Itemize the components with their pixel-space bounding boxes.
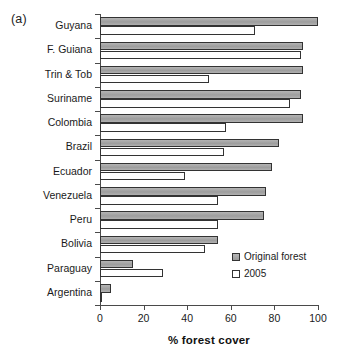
bar-original-forest-paraguay: [100, 260, 133, 269]
y-axis-category-label: Guyana: [55, 19, 92, 31]
x-axis-tick-label: 80: [259, 312, 289, 324]
bar-2005-venezuela: [100, 196, 218, 205]
legend-item-original-forest: Original forest: [232, 250, 306, 264]
bar-original-forest-ecuador: [100, 163, 272, 172]
y-axis-category-label: Trin & Tob: [45, 68, 92, 80]
bar-original-forest-colombia: [100, 114, 303, 123]
y-axis-tick: [95, 160, 100, 161]
x-axis-tick: [231, 305, 232, 310]
bar-original-forest-venezuela: [100, 187, 266, 196]
bar-original-forest-f-guiana: [100, 42, 303, 51]
legend-swatch-2005: [232, 270, 240, 278]
y-axis-tick: [95, 281, 100, 282]
bar-2005-bolivia: [100, 245, 205, 254]
y-axis-category-label: Venezuela: [43, 189, 92, 201]
y-axis-tick: [95, 63, 100, 64]
panel-label: (a): [11, 12, 27, 26]
y-axis-category-label: Suriname: [47, 92, 92, 104]
y-axis-category-label: Brazil: [66, 140, 92, 152]
bar-2005-ecuador: [100, 172, 185, 181]
y-axis-category-label: Colombia: [48, 116, 92, 128]
x-axis-tick-label: 20: [129, 312, 159, 324]
bar-2005-peru: [100, 220, 218, 229]
x-axis-tick: [100, 305, 101, 310]
x-axis-tick-label: 100: [303, 312, 333, 324]
x-axis-tick-label: 60: [216, 312, 246, 324]
legend-swatch-original-forest: [232, 253, 240, 261]
y-axis-tick: [95, 232, 100, 233]
y-axis-tick: [95, 208, 100, 209]
legend-label-original-forest: Original forest: [244, 250, 306, 264]
bar-original-forest-bolivia: [100, 236, 218, 245]
bar-2005-suriname: [100, 99, 290, 108]
chart-legend: Original forest 2005: [232, 250, 306, 284]
x-axis-tick: [187, 305, 188, 310]
y-axis-tick: [95, 111, 100, 112]
y-axis-tick: [95, 38, 100, 39]
bar-2005-paraguay: [100, 269, 163, 278]
bar-2005-colombia: [100, 123, 226, 132]
y-axis-tick: [95, 257, 100, 258]
bar-original-forest-brazil: [100, 139, 279, 148]
y-axis-category-label: Peru: [70, 213, 92, 225]
bar-2005-brazil: [100, 148, 224, 157]
legend-label-2005: 2005: [244, 267, 266, 281]
bar-original-forest-suriname: [100, 90, 301, 99]
bar-2005-guyana: [100, 26, 255, 35]
forest-cover-bar-chart: (a) GuyanaF. GuianaTrin & TobSurinameCol…: [0, 0, 346, 361]
y-axis-category-label: F. Guiana: [47, 43, 92, 55]
bar-original-forest-trin-tob: [100, 66, 303, 75]
legend-item-2005: 2005: [232, 267, 306, 281]
y-axis-tick: [95, 14, 100, 15]
y-axis-tick: [95, 135, 100, 136]
bar-original-forest-guyana: [100, 17, 318, 26]
bar-2005-trin-tob: [100, 75, 209, 84]
y-axis-tick: [95, 184, 100, 185]
y-axis-category-label: Ecuador: [53, 165, 92, 177]
y-axis-category-label: Paraguay: [47, 262, 92, 274]
bar-original-forest-argentina: [100, 284, 111, 293]
bar-2005-f-guiana: [100, 51, 301, 60]
bar-original-forest-peru: [100, 211, 264, 220]
x-axis-tick: [274, 305, 275, 310]
x-axis-tick: [144, 305, 145, 310]
y-axis-category-label: Argentina: [47, 286, 92, 298]
x-axis-tick-label: 40: [172, 312, 202, 324]
x-axis-line: [100, 305, 319, 306]
x-axis-tick-label: 0: [85, 312, 115, 324]
x-axis-tick: [318, 305, 319, 310]
y-axis-tick: [95, 87, 100, 88]
x-axis-title: % forest cover: [100, 334, 318, 346]
bar-2005-argentina: [100, 293, 102, 302]
y-axis-category-label: Bolivia: [61, 237, 92, 249]
